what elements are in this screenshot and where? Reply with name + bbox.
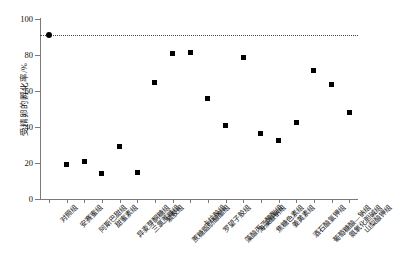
data-point	[135, 170, 140, 175]
data-point	[329, 82, 334, 87]
x-tick-16	[332, 199, 333, 203]
data-point	[188, 50, 193, 55]
x-tick-0	[49, 199, 50, 203]
data-point	[347, 110, 352, 115]
x-tick-17	[349, 199, 350, 203]
data-point	[99, 171, 104, 176]
x-tick-5	[137, 199, 138, 203]
data-point	[152, 80, 157, 85]
data-point	[311, 68, 316, 73]
x-tick-2	[84, 199, 85, 203]
y-tick-label-0: 0	[8, 195, 33, 204]
y-tick-80	[35, 55, 40, 56]
y-tick-40	[35, 127, 40, 128]
x-tick-9	[208, 199, 209, 203]
y-tick-label-100: 100	[8, 15, 33, 24]
category-label: 对照组	[59, 205, 79, 225]
y-tick-label-60: 60	[8, 87, 33, 96]
x-tick-10	[226, 199, 227, 203]
y-tick-label-40: 40	[8, 123, 33, 132]
y-tick-100	[35, 19, 40, 20]
x-axis-line	[40, 199, 358, 200]
data-point	[241, 55, 246, 60]
x-tick-15	[314, 199, 315, 203]
data-point	[294, 120, 299, 125]
data-point	[223, 123, 228, 128]
y-axis-line	[40, 18, 41, 200]
data-point	[46, 32, 52, 38]
data-point	[205, 96, 210, 101]
y-tick-label-20: 20	[8, 159, 33, 168]
y-tick-20	[35, 163, 40, 164]
data-point	[117, 144, 122, 149]
x-tick-12	[261, 199, 262, 203]
data-point	[82, 159, 87, 164]
x-tick-11	[243, 199, 244, 203]
x-tick-6	[155, 199, 156, 203]
data-point	[276, 138, 281, 143]
y-tick-0	[35, 199, 40, 200]
x-tick-13	[279, 199, 280, 203]
data-point	[170, 51, 175, 56]
x-tick-8	[190, 199, 191, 203]
x-tick-1	[67, 199, 68, 203]
x-tick-14	[296, 199, 297, 203]
y-tick-60	[35, 91, 40, 92]
x-tick-3	[102, 199, 103, 203]
x-tick-4	[120, 199, 121, 203]
reference-line	[40, 35, 358, 36]
x-tick-7	[173, 199, 174, 203]
data-point	[258, 131, 263, 136]
data-point	[64, 162, 69, 167]
y-tick-label-80: 80	[8, 51, 33, 60]
